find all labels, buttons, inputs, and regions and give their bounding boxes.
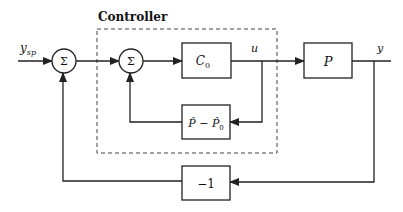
outer-feedback-left [63, 73, 182, 181]
summing-junction-inner: Σ [119, 49, 143, 73]
output-label: y [376, 42, 384, 55]
control-signal-label: u [251, 42, 258, 55]
c0-block: C0 [182, 43, 231, 78]
inner-feedback-right [230, 61, 262, 122]
block-diagram: Controller ysp Σ Σ C0 u P y P̂ − P̂0 −1 [0, 0, 403, 212]
inner-feedback-left [130, 73, 182, 122]
negation-block: −1 [182, 166, 230, 200]
svg-text:P̂ − P̂0: P̂ − P̂0 [187, 117, 224, 132]
plant-block: P [304, 43, 352, 78]
svg-text:P: P [323, 54, 333, 69]
controller-label: Controller [98, 10, 168, 24]
summing-junction-outer: Σ [52, 49, 76, 73]
svg-text:Σ: Σ [60, 55, 68, 68]
input-label: ysp [19, 41, 36, 57]
svg-text:−1: −1 [197, 177, 215, 191]
svg-text:Σ: Σ [127, 55, 135, 68]
model-difference-block: P̂ − P̂0 [182, 105, 230, 139]
